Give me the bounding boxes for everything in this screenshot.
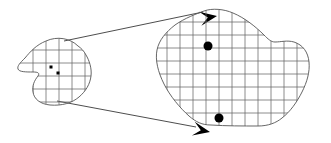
marker-dot-2 <box>215 114 224 123</box>
target-markers <box>204 42 224 123</box>
connector-upper-line <box>64 12 203 41</box>
marker-dot-1 <box>204 42 213 51</box>
marker-square-2 <box>57 72 60 75</box>
source-region-outline <box>18 38 91 105</box>
arrowhead-upper-icon <box>199 12 217 26</box>
marker-square-1 <box>50 66 53 69</box>
figure-root <box>0 0 331 143</box>
connector-lower-line <box>57 101 196 127</box>
target-region-outline <box>156 9 309 126</box>
source-markers <box>50 66 60 75</box>
arrowhead-lower-icon <box>192 122 210 136</box>
diagram-canvas <box>0 0 331 143</box>
